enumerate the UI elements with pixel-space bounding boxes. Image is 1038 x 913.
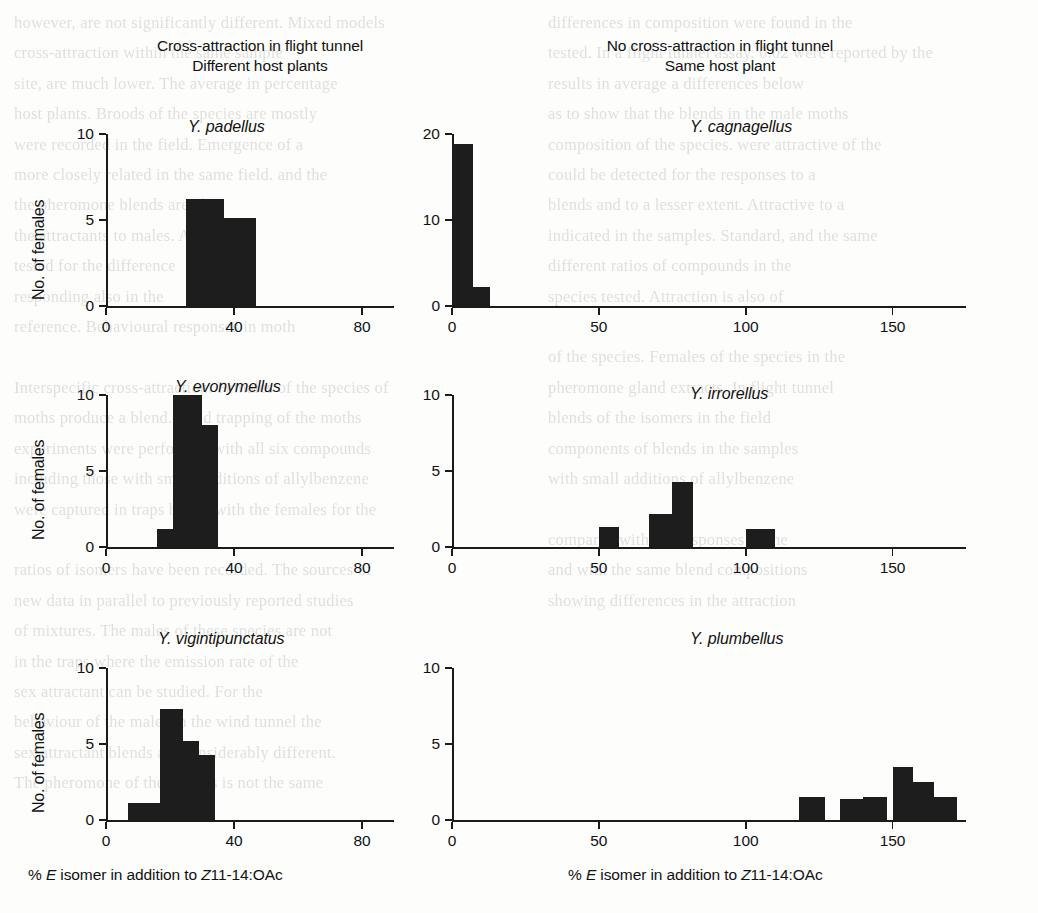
x-axis-tick [745,549,747,556]
y-axis-tick-label: 5 [406,462,440,480]
y-axis-tick-label: 10 [406,659,440,677]
y-axis-label: No. of females [30,713,48,813]
y-axis-tick [99,546,106,548]
x-axis-tick-label: 80 [353,318,370,336]
x-axis-label-left: % E isomer in addition to Z11-14:OAc [28,866,283,884]
histogram-bar [893,767,914,820]
y-axis-tick [445,394,452,396]
x-axis-tick [451,549,453,556]
histogram-bar [157,529,173,547]
y-axis-tick [445,305,452,307]
x-axis-tick-label: 0 [102,832,111,850]
column-header-line1: Cross-attraction in flight tunnel [60,36,460,56]
column-header-line2: Same host plant [520,56,920,76]
x-axis-line [452,306,966,308]
histogram-bar [160,709,182,820]
x-axis-tick [233,549,235,556]
x-axis-tick-label: 0 [448,318,457,336]
x-axis-tick [598,549,600,556]
histogram-bar [199,755,215,820]
x-axis-tick [361,549,363,556]
histogram-bar [599,527,620,547]
histogram-bar [186,199,224,306]
histogram-bar [799,797,825,820]
x-axis-tick [451,822,453,829]
x-axis-tick-label: 0 [448,832,457,850]
y-axis-tick-label: 0 [60,297,94,315]
x-axis-tick-label: 150 [880,559,906,577]
x-axis-tick [233,822,235,829]
y-axis-tick [445,819,452,821]
panel-title: Y. evonymellus [175,378,281,396]
figure-multi-panel-histograms: Cross-attraction in flight tunnel Differ… [0,0,1038,913]
y-axis-tick [99,219,106,221]
y-axis-tick-label: 0 [60,811,94,829]
x-axis-label-p3: 11-14:OAc [751,866,823,883]
x-axis-line [106,547,394,549]
x-axis-tick-label: 0 [102,318,111,336]
y-axis-label: No. of females [30,200,48,300]
y-axis-line [106,395,108,549]
x-axis-tick [361,822,363,829]
x-axis-line [106,306,394,308]
y-axis-label: No. of females [30,440,48,540]
histogram-bar [452,144,473,306]
histogram-bar [746,529,775,547]
x-axis-label-right: % E isomer in addition to Z11-14:OAc [568,866,823,884]
x-axis-label-p2: isomer in addition to [56,866,201,883]
y-axis-tick [445,219,452,221]
x-axis-tick-label: 150 [880,832,906,850]
y-axis-tick-label: 0 [406,538,440,556]
histogram-bar [840,799,863,820]
y-axis-line [452,668,454,822]
histogram-bar [863,797,886,820]
x-axis-line [452,547,966,549]
y-axis-tick-label: 20 [406,125,440,143]
x-axis-tick-label: 150 [880,318,906,336]
y-axis-tick [445,133,452,135]
x-axis-label-p1: % [568,866,586,883]
y-axis-tick-label: 10 [60,125,94,143]
y-axis-line [452,395,454,549]
y-axis-tick [99,470,106,472]
x-axis-tick [105,308,107,315]
x-axis-label-isomer-e: E [586,866,596,883]
x-axis-tick-label: 0 [102,559,111,577]
y-axis-tick [445,546,452,548]
histogram-bar [473,287,491,306]
y-axis-tick-label: 5 [60,211,94,229]
x-axis-tick-label: 50 [590,832,607,850]
y-axis-tick [445,667,452,669]
x-axis-tick [361,308,363,315]
histogram-bar [183,741,199,820]
y-axis-line [106,134,108,308]
histogram-bar [649,514,672,547]
y-axis-tick-label: 10 [406,386,440,404]
y-axis-tick [99,305,106,307]
x-axis-tick-label: 50 [590,559,607,577]
x-axis-tick-label: 80 [353,559,370,577]
x-axis-label-p2: isomer in addition to [596,866,741,883]
y-axis-tick [445,743,452,745]
x-axis-tick [745,822,747,829]
histogram-bar [672,482,693,547]
x-axis-tick [892,822,894,829]
x-axis-tick [745,308,747,315]
panel-title: Y. irrorellus [690,385,768,403]
x-axis-tick [598,822,600,829]
y-axis-tick-label: 5 [60,735,94,753]
y-axis-tick-label: 5 [406,735,440,753]
y-axis-tick [99,133,106,135]
x-axis-line [452,820,966,822]
x-axis-line [106,820,394,822]
y-axis-tick-label: 5 [60,462,94,480]
x-axis-tick-label: 40 [225,318,242,336]
x-axis-tick [451,308,453,315]
y-axis-tick-label: 10 [60,386,94,404]
x-axis-tick-label: 50 [590,318,607,336]
panel-title: Y. plumbellus [690,630,783,648]
x-axis-tick-label: 40 [225,832,242,850]
column-header-line1: No cross-attraction in flight tunnel [520,36,920,56]
y-axis-tick [445,470,452,472]
panel-title: Y. cagnagellus [690,118,792,136]
